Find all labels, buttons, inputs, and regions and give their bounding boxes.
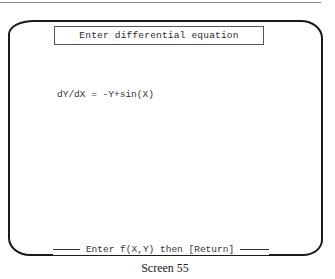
prompt-bar: Enter f(X,Y) then [Return] — [53, 243, 269, 255]
prompt-text: Enter f(X,Y) then [Return] — [83, 244, 237, 255]
figure-caption: Screen 55 — [0, 261, 330, 276]
page-top-rule — [0, 2, 321, 3]
equation-input-line[interactable]: dY/dX = -Y+sin(X) — [57, 89, 154, 100]
prompt-dash-left — [53, 249, 80, 250]
screen-title: Enter differential equation — [79, 30, 238, 41]
screen-title-box: Enter differential equation — [54, 26, 264, 45]
monitor-screen-frame — [8, 20, 323, 256]
prompt-dash-right — [240, 249, 269, 250]
